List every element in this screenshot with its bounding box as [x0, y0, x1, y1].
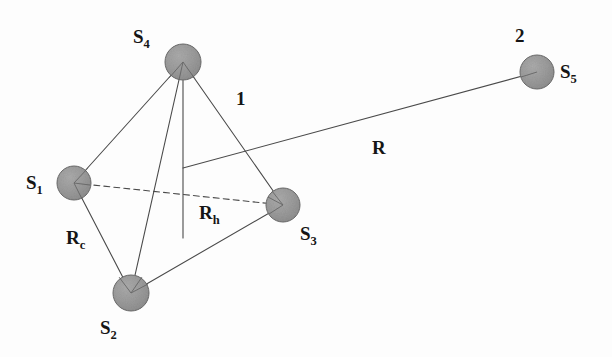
label-cluster-2: 2: [515, 26, 525, 45]
separation-vector-r: [183, 72, 537, 168]
edge-overlay-group: [74, 62, 537, 293]
label-cluster-1: 1: [236, 89, 246, 108]
diagram-svg: [0, 0, 612, 357]
label-vector-rh: Rh: [199, 203, 220, 226]
label-s4: S4: [133, 27, 150, 50]
label-vector-rc: Rc: [66, 228, 85, 251]
edge-group: [74, 62, 537, 293]
label-vector-r: R: [372, 138, 386, 161]
node-group: [57, 44, 554, 311]
label-s5: S5: [560, 62, 577, 85]
diagram-canvas: S1 S2 S3 S4 S5 1 2 R Rc Rh: [0, 0, 612, 357]
label-s1: S1: [26, 173, 43, 196]
edge-s4-s1: [74, 62, 183, 183]
label-s3: S3: [300, 224, 317, 247]
label-s2: S2: [100, 318, 117, 341]
edge-s1-s3-dashed: [74, 183, 283, 205]
edge-s4-s2: [131, 62, 183, 293]
edge-s4-s3: [183, 62, 283, 205]
